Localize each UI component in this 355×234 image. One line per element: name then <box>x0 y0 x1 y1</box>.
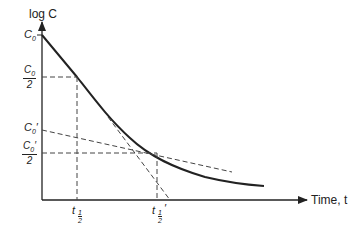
c0-prime-tangent <box>42 130 232 172</box>
x-axis-label: Time, t <box>311 194 347 206</box>
c0-prime-label: C0′ <box>24 122 38 135</box>
decay-curve <box>42 35 264 186</box>
c0-half-label: C0 2 <box>23 65 36 90</box>
t-half-prime-label: t 1 2 ′ <box>152 205 155 216</box>
c0-prime-half-label: C0′ 2 <box>22 141 37 166</box>
y-axis-label: log C <box>29 8 57 20</box>
c0-label: C0 <box>24 29 36 42</box>
decay-diagram <box>0 0 355 234</box>
t-half-label: t 1 2 <box>72 205 75 216</box>
